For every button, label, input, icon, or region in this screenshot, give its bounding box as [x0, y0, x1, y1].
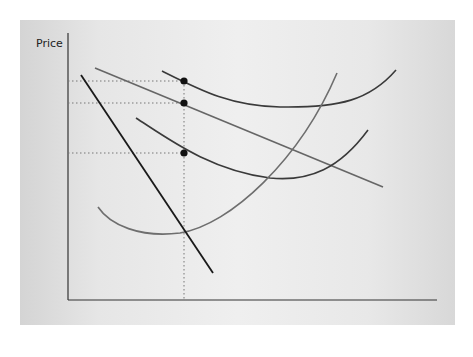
demand-curve — [95, 68, 383, 187]
diagram-canvas: Price — [0, 0, 473, 357]
point-f — [180, 99, 187, 106]
y-axis-label: Price — [36, 37, 63, 50]
point-h — [180, 149, 187, 156]
srac0-curve — [136, 118, 368, 179]
mr-line — [81, 75, 213, 273]
srac1-curve — [162, 70, 396, 107]
point-g — [180, 77, 187, 84]
